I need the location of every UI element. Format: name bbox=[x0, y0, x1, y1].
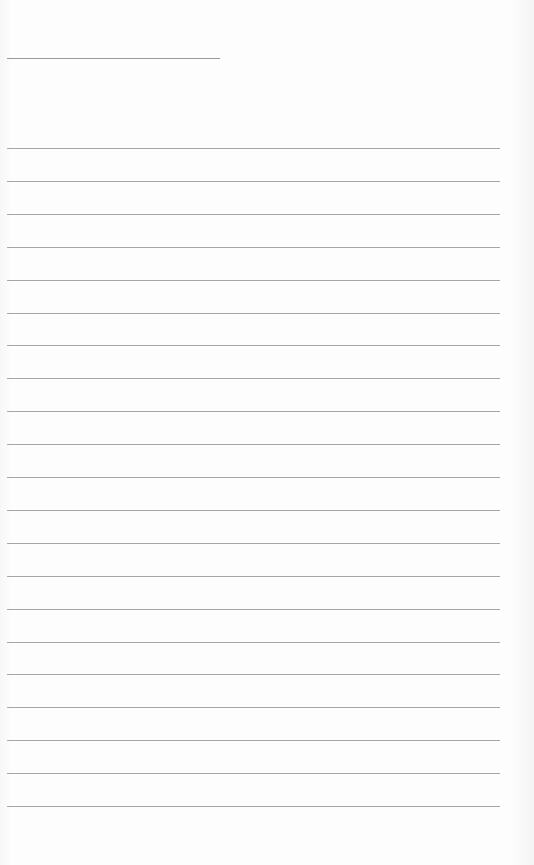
ruled-line bbox=[7, 313, 500, 314]
ruled-line bbox=[7, 181, 500, 182]
ruled-line bbox=[7, 510, 500, 511]
ruled-line bbox=[7, 411, 500, 412]
lined-paper bbox=[0, 0, 534, 865]
ruled-line bbox=[7, 773, 500, 774]
ruled-line bbox=[7, 806, 500, 807]
ruled-line bbox=[7, 576, 500, 577]
ruled-line bbox=[7, 609, 500, 610]
ruled-line bbox=[7, 214, 500, 215]
ruled-line bbox=[7, 280, 500, 281]
ruled-line bbox=[7, 444, 500, 445]
ruled-line bbox=[7, 378, 500, 379]
ruled-line bbox=[7, 148, 500, 149]
ruled-line bbox=[7, 345, 500, 346]
ruled-line bbox=[7, 247, 500, 248]
ruled-line bbox=[7, 543, 500, 544]
header-blank-line bbox=[7, 58, 220, 59]
ruled-line bbox=[7, 674, 500, 675]
ruled-line bbox=[7, 707, 500, 708]
ruled-line bbox=[7, 740, 500, 741]
ruled-line bbox=[7, 477, 500, 478]
ruled-line bbox=[7, 642, 500, 643]
